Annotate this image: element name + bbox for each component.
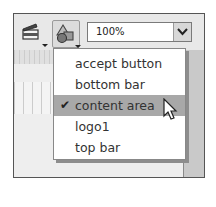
toolbar: 100% bbox=[14, 14, 204, 50]
dropdown-arrow-icon bbox=[42, 44, 48, 47]
clapperboard-icon bbox=[20, 20, 42, 42]
menu-item-top-bar[interactable]: top bar bbox=[54, 137, 185, 158]
checkmark-icon: ✔ bbox=[60, 95, 70, 116]
zoom-value: 100% bbox=[96, 26, 125, 37]
clapperboard-button[interactable] bbox=[20, 20, 46, 46]
chevron-down-icon bbox=[177, 27, 188, 36]
shapes-icon bbox=[53, 21, 77, 45]
zoom-dropdown-button[interactable] bbox=[173, 23, 191, 41]
zoom-select[interactable]: 100% bbox=[87, 22, 192, 42]
vertical-scrollbar[interactable] bbox=[183, 50, 204, 177]
menu-item-accept-button[interactable]: accept button bbox=[54, 53, 185, 74]
shapes-button[interactable] bbox=[52, 20, 80, 48]
mouse-cursor-icon bbox=[163, 98, 179, 122]
menu-item-bottom-bar[interactable]: bottom bar bbox=[54, 74, 185, 95]
